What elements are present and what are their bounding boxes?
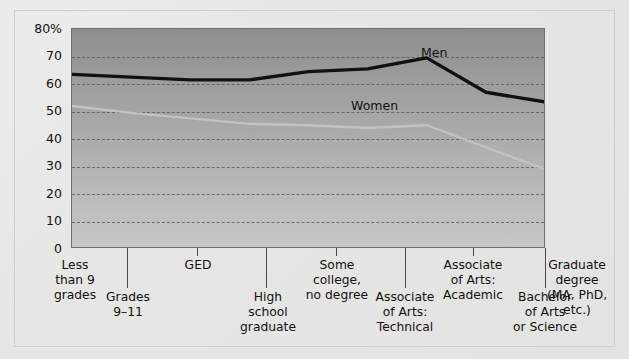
y-tick-label-80: 80% (16, 23, 62, 36)
x-label-line: Less (38, 258, 112, 273)
y-tick-label-30: 30 (16, 160, 62, 173)
x-tick-line-high-school-graduate (266, 248, 267, 288)
series-annotation-women: Women (351, 100, 398, 113)
x-tick-line-grades-9-11 (127, 248, 128, 288)
x-tick-line-aa-technical (405, 248, 406, 288)
x-tick-line-some-college (336, 248, 337, 256)
x-label-line: Associate (361, 290, 449, 305)
series-annotation-men: Men (421, 47, 447, 60)
plot-area (71, 28, 545, 248)
men-series-line (72, 58, 545, 102)
x-label-line: degree (533, 273, 621, 288)
x-label-line: Grades (91, 290, 165, 305)
y-tick-label-10: 10 (16, 215, 62, 228)
x-label-line: Graduate (533, 258, 621, 273)
y-tick-label-60: 60 (16, 78, 62, 91)
x-label-line: Some (295, 258, 379, 273)
x-label-line: college, (295, 273, 379, 288)
x-label-line: of Arts: (429, 273, 517, 288)
x-label-line: or Science (501, 320, 589, 335)
x-tick-line-ged (197, 248, 198, 256)
series-svg (72, 29, 545, 248)
x-label-ged: GED (163, 258, 233, 273)
x-label-line: graduate (231, 320, 305, 335)
x-label-line: of Arts: (361, 305, 449, 320)
chart-figure: 80% 70 60 50 40 30 20 10 0 Men Women (0, 0, 629, 359)
y-tick-label-50: 50 (16, 105, 62, 118)
x-label-line: of Arts (501, 305, 589, 320)
x-label-line: High (231, 290, 305, 305)
y-tick-label-20: 20 (16, 188, 62, 201)
y-tick-label-70: 70 (16, 50, 62, 63)
x-tick-line-aa-academic (473, 248, 474, 256)
women-series-line (72, 106, 545, 169)
x-label-line: Associate (429, 258, 517, 273)
x-label-high-school-graduate: High school graduate (231, 290, 305, 335)
x-label-line: than 9 (38, 273, 112, 288)
x-label-line: GED (163, 258, 233, 273)
x-label-line: school (231, 305, 305, 320)
x-label-line: 9–11 (91, 305, 165, 320)
x-label-grades-9-11: Grades 9–11 (91, 290, 165, 320)
x-label-ba-or-bs: Bachelor of Arts or Science (501, 290, 589, 335)
y-tick-label-40: 40 (16, 133, 62, 146)
plot-wrapper: 80% 70 60 50 40 30 20 10 0 Men Women (0, 0, 629, 359)
y-tick-label-0: 0 (16, 243, 62, 256)
x-label-aa-technical: Associate of Arts: Technical (361, 290, 449, 335)
x-label-line: Technical (361, 320, 449, 335)
x-label-line: Bachelor (501, 290, 589, 305)
